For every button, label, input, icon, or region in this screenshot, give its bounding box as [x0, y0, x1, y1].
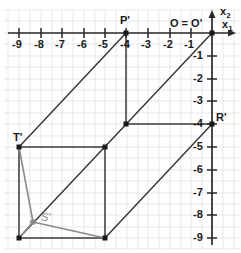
- y-tick-label--5: -5: [193, 140, 203, 152]
- vertex-bottom-left: [17, 236, 22, 241]
- vertex-t: [17, 145, 22, 150]
- vertex-mid-top: [103, 145, 108, 150]
- vertex-origin: [210, 31, 215, 36]
- vertex-bottom-right: [103, 236, 108, 241]
- x-tick-label--4: -4: [120, 38, 130, 50]
- y-tick-label--3: -3: [193, 94, 203, 106]
- vertex-p: [124, 31, 129, 36]
- x-tick-label--5: -5: [98, 38, 108, 50]
- y-tick-label--1: -1: [193, 49, 203, 61]
- point-label-s: S': [41, 211, 50, 223]
- x-tick-label--8: -8: [34, 38, 44, 50]
- coordinate-figure: -9 -8 -7 -6 -5 -4 -3 -2 -1 -1 -2 -3 -4 -…: [0, 0, 241, 253]
- segment-s-right: [33, 222, 105, 238]
- y-tick-label--8: -8: [193, 208, 203, 220]
- segment-o-diagonal: [19, 33, 212, 238]
- point-label-p: P': [120, 14, 130, 26]
- x-tick-label--6: -6: [77, 38, 87, 50]
- x-tick-label--7: -7: [55, 38, 65, 50]
- vertex-mid: [124, 122, 129, 127]
- y-tick-label--7: -7: [193, 186, 203, 198]
- y-tick-label--4: -4: [193, 117, 203, 129]
- construction-lines: [19, 33, 212, 238]
- vertex-r: [210, 122, 215, 127]
- y-tick-label--9: -9: [193, 231, 203, 243]
- x-tick-label--9: -9: [12, 38, 22, 50]
- origin-label: O = O': [170, 17, 202, 29]
- vertex-s: [30, 219, 36, 225]
- x-tick-label--3: -3: [141, 38, 151, 50]
- x1-axis-subscript: 1: [228, 24, 232, 33]
- y-tick-label--2: -2: [193, 72, 203, 84]
- x1-axis-label: x1: [222, 18, 233, 33]
- point-label-r: R': [216, 111, 227, 123]
- point-label-t: T': [13, 131, 22, 143]
- x2-axis-arrow: [209, 10, 216, 18]
- x-tick-label--2: -2: [163, 38, 173, 50]
- y-tick-label--6: -6: [193, 163, 203, 175]
